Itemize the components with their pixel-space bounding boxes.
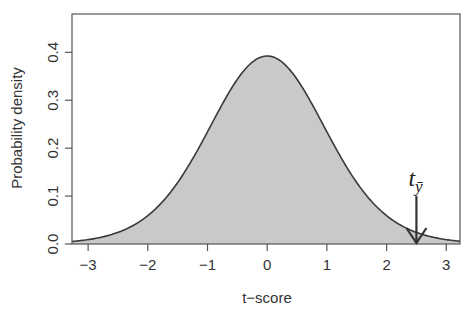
x-tick-label: 2 <box>382 256 390 273</box>
x-tick-label: −1 <box>199 256 216 273</box>
y-tick-label: 0.2 <box>44 138 61 159</box>
y-tick-label: 0.0 <box>44 234 61 255</box>
x-tick-label: 1 <box>323 256 331 273</box>
y-tick-label: 0.1 <box>44 186 61 207</box>
x-tick-label: 0 <box>263 256 271 273</box>
ybar-subscript: ȳ <box>413 177 423 196</box>
x-axis: −3−2−10123 <box>80 244 451 273</box>
t-ybar-label: tȳ <box>408 165 423 196</box>
x-tick-label: −3 <box>80 256 97 273</box>
t-distribution-chart: −3−2−10123 0.00.10.20.30.4 t−score Proba… <box>0 0 471 311</box>
x-tick-label: 3 <box>442 256 450 273</box>
x-tick-label: −2 <box>139 256 156 273</box>
y-axis: 0.00.10.20.30.4 <box>44 42 72 255</box>
density-area-fill <box>72 56 460 244</box>
y-tick-label: 0.3 <box>44 90 61 111</box>
x-axis-title: t−score <box>242 289 292 306</box>
y-tick-label: 0.4 <box>44 42 61 63</box>
plot-area <box>72 56 460 244</box>
y-axis-title: Probability density <box>8 67 25 189</box>
observed-t-annotation: tȳ <box>406 165 426 243</box>
